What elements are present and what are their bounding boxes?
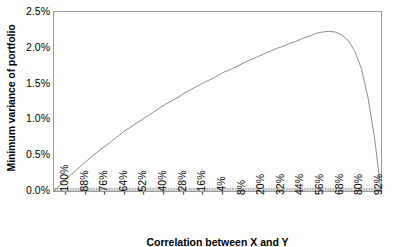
chart-container: Minimum variance of portfolio 0.0%0.5%1.… <box>0 0 395 247</box>
x-tick-label: 44% <box>293 174 305 195</box>
x-tick-label: -4% <box>215 176 227 195</box>
x-tick-label: -76% <box>97 170 109 195</box>
x-tick-label: 80% <box>352 174 364 195</box>
x-tick-label: 20% <box>254 174 266 195</box>
x-tick-label: -88% <box>78 170 90 195</box>
x-tick-label: -52% <box>136 170 148 195</box>
x-tick-label: 68% <box>333 174 345 195</box>
x-tick-label: -28% <box>176 170 188 195</box>
x-tick-label: 56% <box>313 174 325 195</box>
x-axis-tick-labels: -100%-88%-76%-64%-52%-40%-28%-16%-4%8%20… <box>0 0 395 247</box>
x-tick-label: -100% <box>58 165 70 195</box>
x-axis-title: Correlation between X and Y <box>53 236 382 247</box>
x-tick-label: -40% <box>156 170 168 195</box>
x-tick-label: 32% <box>274 174 286 195</box>
x-tick-label: -64% <box>117 170 129 195</box>
x-tick-label: 8% <box>235 180 247 195</box>
x-tick-label: -16% <box>195 170 207 195</box>
x-tick-label: 92% <box>372 174 384 195</box>
